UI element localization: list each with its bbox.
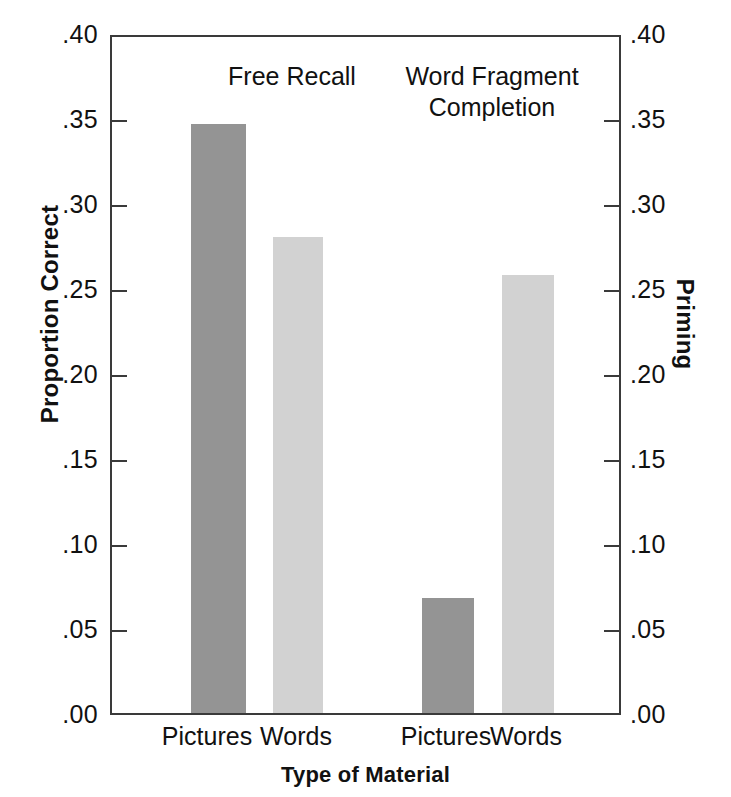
y-tick-label-left-005: .05 — [18, 617, 98, 642]
y-tick-label-right-010: .10 — [630, 532, 710, 557]
y-tick-mark-left-025 — [112, 290, 127, 292]
bar-chart-figure: .40 .35 .30 .25 .20 .15 .10 .05 .00 .40 … — [0, 0, 731, 797]
y-tick-label-left-035: .35 — [18, 107, 98, 132]
y-tick-mark-left-015 — [112, 460, 127, 462]
x-axis-title: Type of Material — [0, 762, 731, 788]
y-tick-mark-right-005 — [604, 630, 619, 632]
group-header-free-recall: Free Recall — [177, 61, 407, 92]
y-tick-mark-right-030 — [604, 205, 619, 207]
y-tick-label-right-000: .00 — [630, 702, 710, 727]
y-tick-mark-right-015 — [604, 460, 619, 462]
group-header-word-fragment-completion: Word Fragment Completion — [377, 61, 607, 123]
y-tick-mark-right-020 — [604, 375, 619, 377]
bar-word-fragment-words — [502, 275, 554, 713]
x-tick-label-word-fragment-words: Words — [446, 722, 606, 750]
y-axis-right-title: Priming — [671, 194, 699, 454]
y-tick-label-left-000: .00 — [18, 702, 98, 727]
y-tick-label-right-005: .05 — [630, 617, 710, 642]
y-tick-mark-left-035 — [112, 120, 127, 122]
y-tick-label-left-010: .10 — [18, 532, 98, 557]
y-tick-mark-left-005 — [112, 630, 127, 632]
bar-free-recall-words — [273, 237, 323, 713]
y-tick-label-right-040: .40 — [630, 22, 710, 47]
y-axis-left-title: Proportion Correct — [36, 184, 64, 444]
y-tick-mark-right-025 — [604, 290, 619, 292]
y-tick-label-left-040: .40 — [18, 22, 98, 47]
y-tick-label-right-035: .35 — [630, 107, 710, 132]
y-tick-label-left-015: .15 — [18, 447, 98, 472]
y-tick-mark-left-020 — [112, 375, 127, 377]
bar-free-recall-pictures — [191, 124, 246, 713]
y-tick-mark-left-010 — [112, 545, 127, 547]
x-tick-label-free-recall-words: Words — [216, 722, 376, 750]
y-tick-mark-right-010 — [604, 545, 619, 547]
bar-word-fragment-pictures — [422, 598, 474, 713]
plot-area: Free Recall Word Fragment Completion — [110, 35, 621, 715]
y-tick-mark-left-030 — [112, 205, 127, 207]
